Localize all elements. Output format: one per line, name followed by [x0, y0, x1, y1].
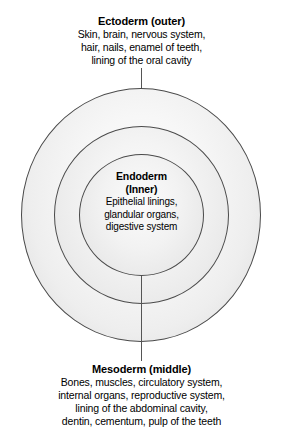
mesoderm-caption: Mesoderm (middle) Bones, muscles, circul…: [0, 362, 283, 428]
mesoderm-line-4: dentin, cementum, pulp of the teeth: [0, 415, 283, 428]
mesoderm-line-3: lining of the abdominal cavity,: [0, 402, 283, 415]
endoderm-title-line-1: Endoderm: [79, 170, 204, 183]
mesoderm-line-1: Bones, muscles, circulatory system,: [0, 376, 283, 389]
endoderm-line-1: Epithelial linings,: [79, 196, 204, 209]
endoderm-title-line-2: (Inner): [79, 183, 204, 196]
mesoderm-leader-line: [141, 276, 142, 361]
endoderm-line-2: glandular organs,: [79, 209, 204, 222]
mesoderm-line-2: internal organs, reproductive system,: [0, 389, 283, 402]
endoderm-line-3: digestive system: [79, 221, 204, 234]
endoderm-caption: Endoderm (Inner) Epithelial linings, gla…: [79, 170, 204, 234]
mesoderm-title: Mesoderm (middle): [0, 362, 283, 376]
